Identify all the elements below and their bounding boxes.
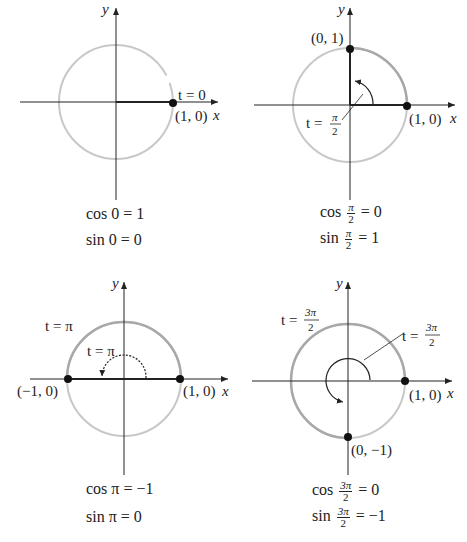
cos-value: = 0	[358, 481, 379, 498]
cos-fraction: 3π2	[339, 480, 352, 503]
sin-prefix: sin	[312, 507, 331, 524]
point-label-1-0: (1, 0)	[409, 111, 442, 128]
y-axis-label: y	[110, 275, 119, 291]
x-axis-label: x	[446, 385, 454, 401]
t-label-inner: t = π	[87, 343, 115, 359]
point-0-1	[346, 45, 354, 53]
cos-prefix: cos	[312, 481, 333, 498]
t-label-outer-den: 2	[308, 321, 314, 333]
t-label-den: 2	[332, 125, 338, 137]
t-label-inner-num: 3π	[425, 321, 438, 333]
y-axis-label: y	[336, 1, 345, 17]
caption-sin-pi: sin π = 0	[86, 508, 142, 526]
caption-cos-0: cos 0 = 1	[86, 205, 144, 223]
t-label-inner-prefix: t =	[402, 328, 418, 344]
t-label: t = 0	[178, 87, 206, 103]
t-label-outer-prefix: t =	[281, 312, 297, 328]
panel-t-pi-over-2: y x (0, 1) (1, 0) t = π 2	[254, 1, 457, 200]
cos-value: = 0	[361, 203, 382, 220]
sin-fraction: π2	[345, 228, 353, 251]
panel-t-3pi-over-2: y x (1, 0) (0, −1) t = 3π 2 t = 3π 2	[252, 275, 454, 475]
unit-circle-diagrams: y x t = 0 (1, 0) y x (0, 1) (1, 0) t = π…	[0, 0, 467, 542]
x-axis-label: x	[212, 107, 220, 123]
caption-sin-0: sin 0 = 0	[86, 231, 142, 249]
traversed-arc	[350, 48, 407, 105]
point-1-0	[176, 375, 184, 383]
point-label-1-0: (1, 0)	[175, 108, 208, 125]
caption-cos-pi: cos π = −1	[86, 480, 153, 498]
t-label-outer-num: 3π	[304, 306, 317, 318]
point-label-1-0: (1, 0)	[409, 387, 442, 404]
point-1-0	[169, 99, 177, 107]
y-axis-label: y	[334, 275, 343, 291]
y-axis-label: y	[100, 1, 109, 17]
t-label-inner-den: 2	[429, 336, 435, 348]
caption-sin-pi-over-2: sin π2 = 1	[320, 228, 379, 251]
caption-cos-3pi-over-2: cos 3π2 = 0	[312, 480, 379, 503]
point-0-neg1	[344, 433, 352, 441]
t-label-prefix: t =	[306, 115, 322, 131]
x-axis-label: x	[221, 383, 229, 399]
point-1-0	[401, 377, 409, 385]
sin-fraction: 3π2	[337, 506, 350, 529]
point-label-0-neg1: (0, −1)	[351, 442, 392, 459]
panel-t-0: y x t = 0 (1, 0)	[20, 1, 220, 200]
caption-cos-pi-over-2: cos π2 = 0	[320, 202, 382, 225]
sin-value: = 1	[358, 229, 379, 246]
point-label-neg1-0: (−1, 0)	[17, 383, 58, 400]
t-label-outer: t = π	[45, 318, 73, 334]
point-1-0	[403, 102, 411, 110]
caption-sin-3pi-over-2: sin 3π2 = −1	[312, 506, 386, 529]
point-label-1-0: (1, 0)	[183, 383, 216, 400]
leader-line	[342, 94, 363, 120]
point-label-0-1: (0, 1)	[311, 30, 344, 47]
sin-prefix: sin	[320, 229, 339, 246]
x-axis-label: x	[449, 110, 457, 126]
panel-t-pi: y x t = π t = π (−1, 0) (1, 0)	[17, 275, 229, 475]
sin-value: = −1	[356, 507, 386, 524]
point-neg1-0	[64, 375, 72, 383]
cos-fraction: π2	[347, 202, 355, 225]
cos-prefix: cos	[320, 203, 341, 220]
t-label-num: π	[332, 111, 338, 123]
